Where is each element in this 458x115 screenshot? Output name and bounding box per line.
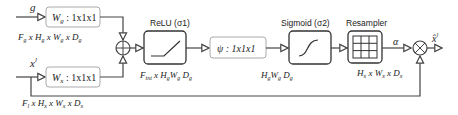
psi-block: ψ : 1x1x1 HgWg Dg bbox=[210, 37, 293, 81]
add-node bbox=[116, 41, 143, 55]
resampler-block: Resampler Hx x Wx x Dx α bbox=[346, 18, 411, 79]
attention-gate-diagram: g Wg : 1x1x1 Fg x Hg x Wg x Dg xl Wx : 1… bbox=[0, 0, 458, 115]
x-label: xl bbox=[29, 56, 37, 69]
g-dims: Fg x Hg x Wg x Dg bbox=[17, 32, 82, 43]
x-dims: Fl x Hx x Wx x Dx bbox=[21, 98, 84, 109]
relu-block: ReLU (σ1) Fint x HgWg Dg bbox=[139, 18, 209, 81]
x-branch: xl Wx : 1x1x1 Fl x Hx x Wx x Dx bbox=[16, 56, 420, 109]
g-branch: g Wg : 1x1x1 Fg x Hg x Wg x Dg bbox=[16, 1, 123, 43]
relu-title: ReLU (σ1) bbox=[150, 18, 190, 28]
sigmoid-block: Sigmoid (σ2) bbox=[281, 18, 347, 64]
relu-dims: Fint x HgWg Dg bbox=[139, 70, 192, 81]
resampler-title: Resampler bbox=[346, 18, 387, 28]
resampler-dims: Hx x Wx x Dx bbox=[356, 68, 403, 79]
psi-conv-label: ψ : 1x1x1 bbox=[217, 43, 255, 54]
multiply-node: x̂l bbox=[413, 32, 442, 55]
sigmoid-title: Sigmoid (σ2) bbox=[281, 18, 330, 28]
g-label: g bbox=[30, 1, 36, 13]
psi-dims: HgWg Dg bbox=[260, 70, 293, 81]
alpha-label: α bbox=[393, 36, 399, 47]
output-label: x̂l bbox=[431, 32, 438, 44]
